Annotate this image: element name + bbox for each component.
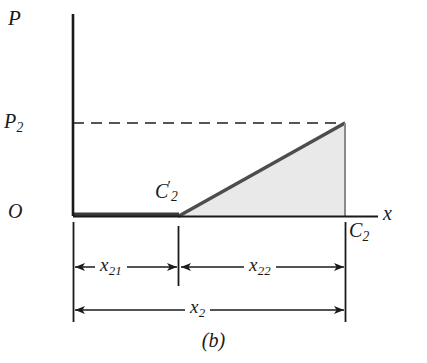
x2-subscript: 2 (198, 305, 205, 320)
figure-caption: (b) (0, 330, 427, 350)
origin-label: O (8, 201, 22, 221)
c2-prime-label: C′2 (155, 178, 178, 204)
c2-prime-subscript: 2 (171, 189, 178, 204)
figure-canvas (0, 0, 427, 363)
dimension-label-x2: x2 (185, 297, 210, 320)
dimension-label-x21: x21 (95, 255, 127, 278)
p2-base: P (4, 110, 16, 132)
x-axis-label: x (383, 203, 392, 223)
c2-base: C (349, 219, 362, 241)
y-axis-label: P (8, 8, 21, 29)
c2-subscript: 2 (362, 229, 369, 244)
x22-subscript: 22 (257, 263, 270, 278)
pressure-distribution-figure: P P2 O x C′2 C2 x21 x22 x2 (b) (0, 0, 427, 363)
x21-subscript: 21 (108, 263, 121, 278)
c2-label: C2 (349, 220, 369, 243)
p2-value-label: P2 (4, 111, 23, 134)
p2-subscript: 2 (16, 120, 23, 135)
dimension-label-x22: x22 (244, 255, 276, 278)
